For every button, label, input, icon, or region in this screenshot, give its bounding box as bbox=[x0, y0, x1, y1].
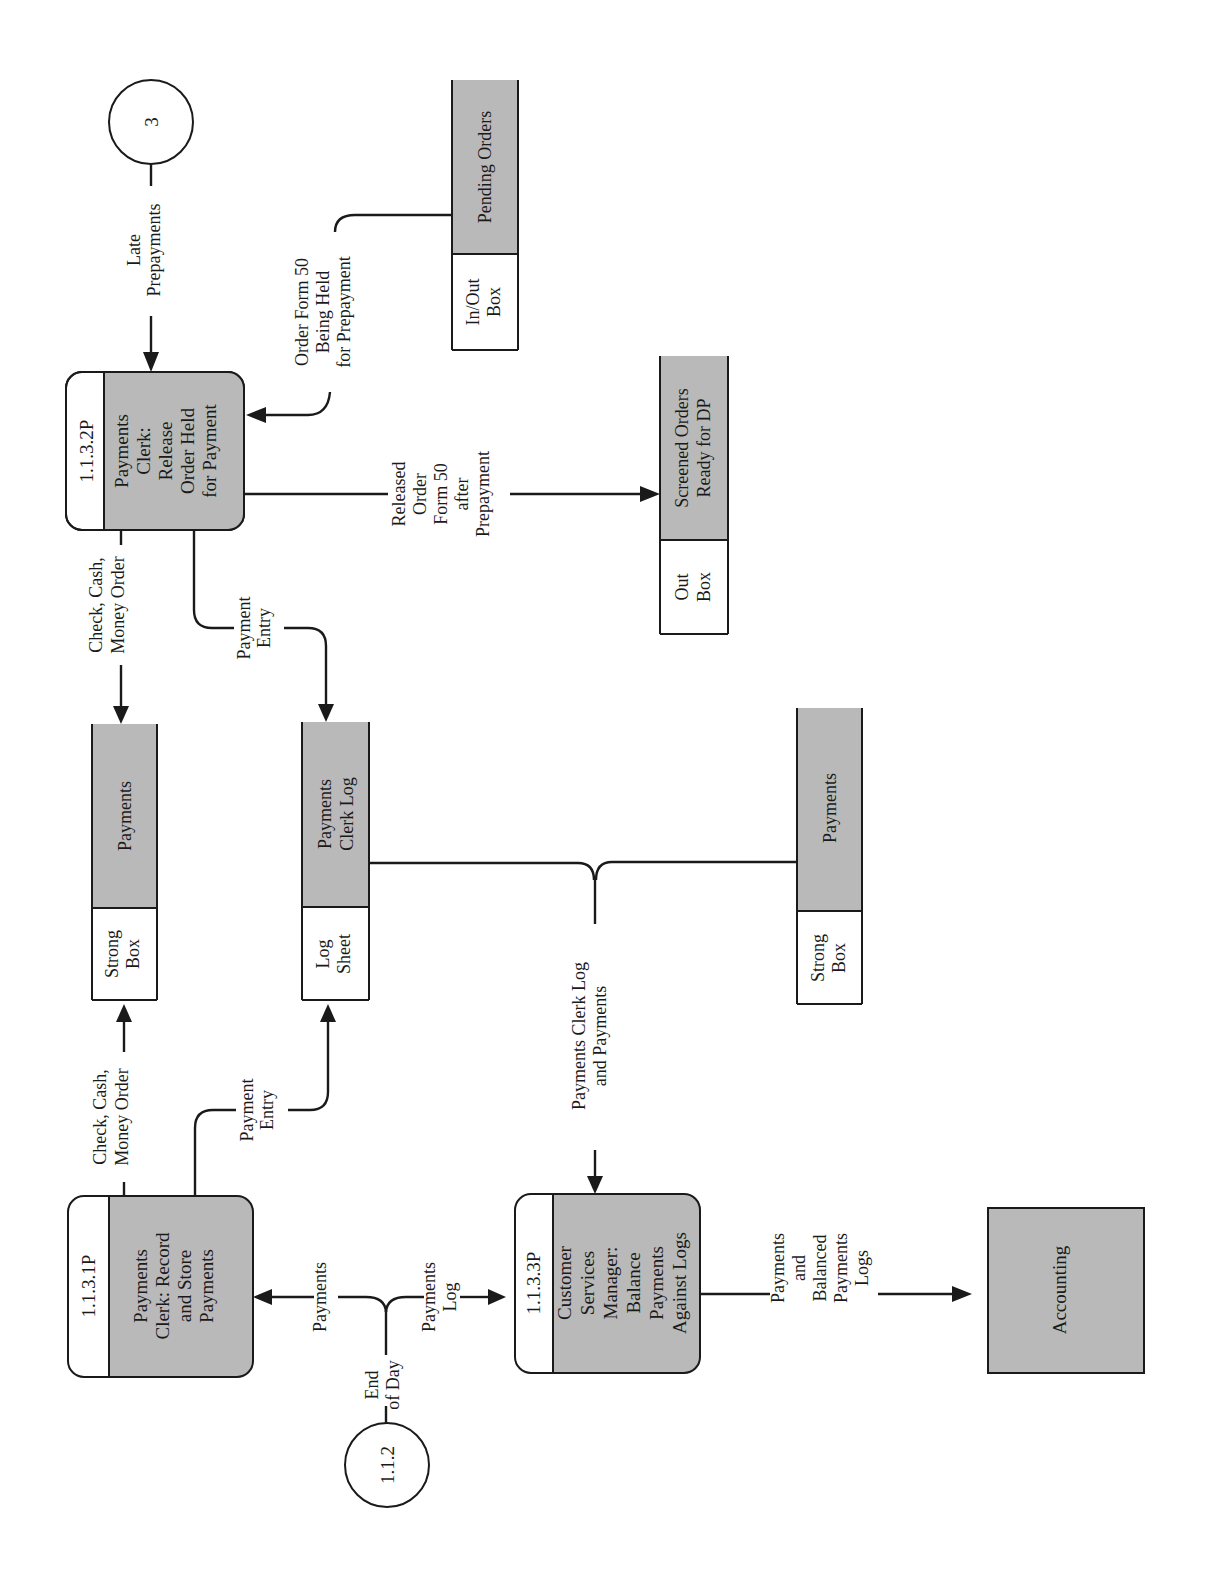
process-id: 1.1.3.2P bbox=[76, 420, 97, 483]
process-id: 1.1.3.3P bbox=[523, 1252, 544, 1315]
connector-1-1-2-label: 1.1.2 bbox=[377, 1446, 398, 1484]
flow-label: Check, Cash, bbox=[90, 1069, 110, 1164]
arrowhead-icon bbox=[113, 706, 129, 724]
flow-label: Entry bbox=[257, 1090, 277, 1130]
flow-label: after bbox=[452, 478, 472, 511]
process-label-line: Services bbox=[577, 1251, 598, 1315]
flow-label: Form 50 bbox=[431, 463, 451, 525]
flow-label: Log bbox=[440, 1283, 460, 1312]
store-id: Box bbox=[123, 939, 143, 969]
store-id: In/Out bbox=[463, 279, 483, 326]
process-label-line: Order Held bbox=[177, 408, 198, 494]
store-payments-strong-box-right[interactable]: Payments Strong Box bbox=[797, 708, 862, 1004]
flow-label: for Prepayment bbox=[334, 256, 354, 367]
process-label-line: Manager: bbox=[600, 1247, 621, 1320]
process-1-1-3-3p[interactable]: 1.1.3.3P Customer Services Manager: Bala… bbox=[515, 1194, 700, 1373]
process-id: 1.1.3.1P bbox=[78, 1255, 99, 1318]
flow-label: Logs bbox=[852, 1250, 872, 1286]
process-label-line: Balance bbox=[623, 1252, 644, 1313]
store-screened-orders[interactable]: Screened Orders Ready for DP Out Box bbox=[660, 356, 728, 634]
store-id: Box bbox=[829, 943, 849, 973]
flow-label: Payments bbox=[310, 1262, 330, 1332]
store-name: Pending Orders bbox=[475, 111, 495, 223]
store-name: Payments bbox=[315, 779, 335, 849]
arrowhead-icon bbox=[587, 1176, 603, 1194]
external-entity-accounting[interactable]: Accounting bbox=[988, 1208, 1144, 1373]
store-pending-orders[interactable]: Pending Orders In/Out Box bbox=[452, 80, 518, 350]
flow-label: Payments bbox=[419, 1262, 439, 1332]
connector-3-label: 3 bbox=[141, 117, 162, 127]
flow-payment-entry-upper[interactable]: Payment Entry bbox=[194, 530, 334, 722]
store-name: Screened Orders bbox=[672, 388, 692, 507]
connector-3[interactable]: 3 bbox=[109, 80, 193, 164]
flow-label: Payments Clerk Log bbox=[569, 962, 589, 1110]
flow-label: End bbox=[362, 1371, 382, 1400]
store-id: Strong bbox=[102, 930, 122, 978]
flow-payment-entry-lower[interactable]: Payment Entry bbox=[195, 1004, 336, 1196]
arrowhead-icon bbox=[246, 407, 266, 423]
arrowhead-icon bbox=[253, 1289, 272, 1305]
process-label-line: Clerk: bbox=[133, 427, 154, 475]
flow-label: Money Order bbox=[108, 556, 128, 653]
flow-label: Entry bbox=[254, 608, 274, 648]
process-label-line: Clerk: Record bbox=[152, 1232, 173, 1340]
store-name: Ready for DP bbox=[694, 399, 714, 498]
flow-label: Order bbox=[410, 473, 430, 515]
flow-label: Order Form 50 bbox=[292, 258, 312, 366]
process-1-1-3-2p[interactable]: 1.1.3.2P Payments Clerk: Release Order H… bbox=[66, 372, 244, 530]
arrowhead-icon bbox=[318, 704, 334, 722]
flow-label: Money Order bbox=[112, 1068, 132, 1165]
flow-label: Check, Cash, bbox=[86, 557, 106, 652]
process-label-line: Payments bbox=[646, 1246, 667, 1320]
flow-label: Balanced bbox=[810, 1235, 830, 1302]
store-payments-clerk-log[interactable]: Payments Clerk Log Log Sheet bbox=[302, 722, 369, 1000]
process-label-line: Against Logs bbox=[669, 1232, 690, 1334]
flow-end-of-day-fork[interactable]: Payments Payments Log End of Day bbox=[253, 1262, 506, 1424]
flow-check-cash-upper[interactable]: Check, Cash, Money Order bbox=[86, 530, 129, 724]
flow-label: Prepayment bbox=[473, 451, 493, 537]
store-name: Clerk Log bbox=[337, 777, 357, 851]
process-label-line: Release bbox=[155, 421, 176, 480]
process-label-line: Payments bbox=[130, 1249, 151, 1323]
flow-label: Being Held bbox=[313, 271, 333, 354]
arrowhead-icon bbox=[320, 1004, 336, 1022]
flow-label: Payment bbox=[234, 597, 254, 660]
flow-label: Payments bbox=[831, 1233, 851, 1303]
store-name: Payments bbox=[115, 781, 135, 851]
flow-check-cash-lower[interactable]: Check, Cash, Money Order bbox=[90, 1004, 132, 1196]
flow-label: Released bbox=[389, 462, 409, 527]
process-label-line: Customer bbox=[554, 1245, 575, 1320]
arrowhead-icon bbox=[116, 1004, 132, 1022]
flow-label: Payments bbox=[768, 1233, 788, 1303]
flow-label: of Day bbox=[383, 1360, 403, 1409]
flow-order-form-held[interactable]: Order Form 50 Being Held for Prepayment bbox=[246, 215, 452, 423]
store-name: Payments bbox=[820, 773, 840, 843]
external-entity-label: Accounting bbox=[1049, 1245, 1070, 1334]
arrowhead-icon bbox=[952, 1286, 972, 1302]
store-id: Sheet bbox=[334, 934, 354, 974]
connector-1-1-2[interactable]: 1.1.2 bbox=[345, 1423, 429, 1507]
process-label-line: for Payment bbox=[199, 404, 220, 498]
flow-label: and bbox=[789, 1255, 809, 1281]
store-id: Log bbox=[313, 940, 333, 969]
flow-clerk-log-and-payments[interactable]: Payments Clerk Log and Payments bbox=[369, 862, 797, 1194]
data-flow-diagram: 3 Late Prepayments 1.1.3.2P Payments Cle… bbox=[0, 0, 1208, 1593]
flow-label: Late bbox=[124, 234, 144, 266]
process-label-line: and Store bbox=[174, 1250, 195, 1322]
process-label-line: Payments bbox=[196, 1249, 217, 1323]
process-label-line: Payments bbox=[111, 414, 132, 488]
store-id: Box bbox=[484, 287, 504, 317]
arrowhead-icon bbox=[143, 352, 159, 372]
store-id: Out bbox=[672, 574, 692, 601]
flow-label: and Payments bbox=[590, 986, 610, 1087]
flow-label: Prepayments bbox=[144, 204, 164, 297]
flow-label: Payment bbox=[237, 1079, 257, 1142]
arrowhead-icon bbox=[640, 486, 660, 502]
flow-balanced-logs[interactable]: Payments and Balanced Payments Logs bbox=[700, 1233, 972, 1303]
store-id: Strong bbox=[808, 934, 828, 982]
store-payments-strong-box-left[interactable]: Payments Strong Box bbox=[92, 724, 157, 1000]
arrowhead-icon bbox=[488, 1289, 506, 1305]
flow-released-order[interactable]: Released Order Form 50 after Prepayment bbox=[244, 451, 660, 537]
flow-late-prepayments[interactable]: Late Prepayments bbox=[124, 164, 164, 372]
process-1-1-3-1p[interactable]: 1.1.3.1P Payments Clerk: Record and Stor… bbox=[68, 1196, 253, 1377]
